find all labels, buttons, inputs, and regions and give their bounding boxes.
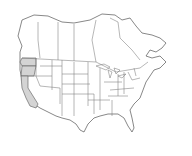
north-america-landmass — [18, 14, 166, 132]
highlight-washington — [20, 58, 36, 66]
highlight-oregon — [21, 66, 36, 76]
range-map — [0, 0, 192, 156]
